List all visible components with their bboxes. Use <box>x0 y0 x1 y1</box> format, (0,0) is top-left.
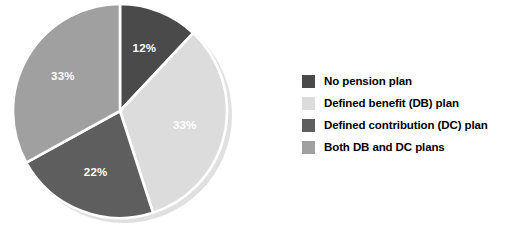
pie-chart-figure: 12%33%22%33% No pension plan Defined ben… <box>0 0 505 244</box>
pie-chart-area: 12%33%22%33% <box>0 0 252 244</box>
legend-item-both-db-and-dc-plans[interactable]: Both DB and DC plans <box>302 136 502 158</box>
pie-slices-group <box>13 4 227 218</box>
legend-swatch-defined-contribution-plan <box>302 119 315 132</box>
legend-swatch-defined-benefit-plan <box>302 97 315 110</box>
pie-slice-label: 22% <box>84 166 108 178</box>
legend-swatch-no-pension-plan <box>302 75 315 88</box>
legend-label-no-pension-plan: No pension plan <box>324 75 412 88</box>
pie-slice-label: 33% <box>51 70 75 82</box>
chart-legend: No pension plan Defined benefit (DB) pla… <box>302 70 502 158</box>
legend-item-defined-benefit-plan[interactable]: Defined benefit (DB) plan <box>302 92 502 114</box>
legend-item-defined-contribution-plan[interactable]: Defined contribution (DC) plan <box>302 114 502 136</box>
legend-label-defined-contribution-plan: Defined contribution (DC) plan <box>324 119 488 132</box>
pie-chart-svg: 12%33%22%33% <box>0 0 252 244</box>
legend-item-no-pension-plan[interactable]: No pension plan <box>302 70 502 92</box>
legend-label-both-db-and-dc-plans: Both DB and DC plans <box>324 141 445 154</box>
legend-label-defined-benefit-plan: Defined benefit (DB) plan <box>324 97 459 110</box>
legend-swatch-both-db-and-dc-plans <box>302 141 315 154</box>
pie-slice-label: 33% <box>173 119 197 131</box>
pie-slice-label: 12% <box>133 42 157 54</box>
